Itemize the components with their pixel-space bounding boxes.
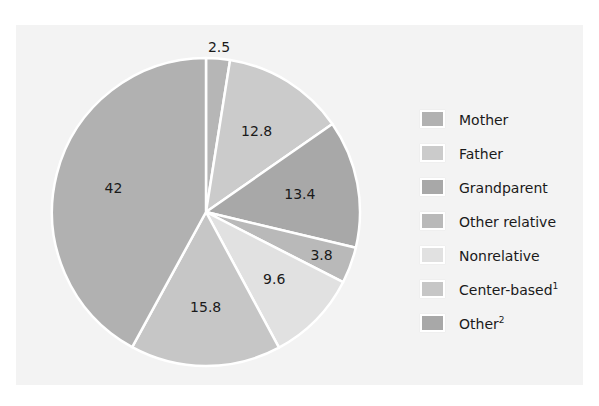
legend: Mother Father Grandparent Other relative… bbox=[420, 102, 558, 340]
legend-item-other-relative: Other relative bbox=[420, 204, 558, 238]
legend-label: Nonrelative bbox=[459, 247, 540, 264]
legend-label: Grandparent bbox=[459, 179, 548, 196]
slice-value-label: 12.8 bbox=[241, 123, 272, 139]
legend-swatch bbox=[420, 212, 445, 230]
legend-swatch bbox=[420, 280, 445, 298]
legend-swatch bbox=[420, 246, 445, 264]
legend-item-center-based: Center-based1 bbox=[420, 272, 558, 306]
slice-value-label: 15.8 bbox=[190, 299, 221, 315]
slice-value-label: 9.6 bbox=[263, 271, 285, 287]
pie-slices bbox=[52, 58, 360, 366]
slice-value-label: 3.8 bbox=[310, 247, 332, 263]
legend-label: Center-based1 bbox=[459, 281, 558, 298]
legend-label: Other relative bbox=[459, 213, 556, 230]
legend-label: Other2 bbox=[459, 315, 505, 332]
legend-item-father: Father bbox=[420, 136, 558, 170]
legend-item-nonrelative: Nonrelative bbox=[420, 238, 558, 272]
legend-swatch bbox=[420, 110, 445, 128]
legend-swatch bbox=[420, 144, 445, 162]
slice-value-label: 42 bbox=[105, 180, 123, 196]
slice-value-label: 2.5 bbox=[208, 39, 230, 55]
legend-swatch bbox=[420, 178, 445, 196]
legend-label: Father bbox=[459, 145, 503, 162]
legend-swatch bbox=[420, 314, 445, 332]
legend-item-grandparent: Grandparent bbox=[420, 170, 558, 204]
legend-label: Mother bbox=[459, 111, 508, 128]
legend-item-mother: Mother bbox=[420, 102, 558, 136]
legend-item-other: Other2 bbox=[420, 306, 558, 340]
slice-value-label: 13.4 bbox=[284, 186, 315, 202]
